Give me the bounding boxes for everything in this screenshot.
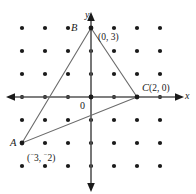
lattice-dot xyxy=(135,141,139,145)
vertex-point-b xyxy=(89,26,94,31)
lattice-dot xyxy=(43,49,47,53)
lattice-dot xyxy=(20,164,24,168)
y-axis-bottom-arrowhead xyxy=(87,183,95,192)
triangle-abc xyxy=(22,28,137,143)
lattice-dot xyxy=(135,26,139,30)
lattice-dot xyxy=(158,164,162,168)
lattice-dot xyxy=(135,49,139,53)
point-label-b: B xyxy=(71,23,77,34)
lattice-dot xyxy=(112,118,116,122)
lattice-dot xyxy=(43,164,47,168)
triangle-vertices xyxy=(20,26,140,146)
lattice-dot xyxy=(20,49,24,53)
x-axis-left-arrowhead xyxy=(6,93,15,101)
lattice-dot xyxy=(66,49,70,53)
lattice-dot xyxy=(66,72,70,76)
lattice-dot xyxy=(66,118,70,122)
vertex-point-c xyxy=(135,95,140,100)
lattice-dot xyxy=(43,141,47,145)
lattice-dot xyxy=(20,118,24,122)
origin-label: 0 xyxy=(80,101,85,111)
lattice-dot xyxy=(135,164,139,168)
lattice-dot xyxy=(66,141,70,145)
lattice-dot xyxy=(112,164,116,168)
lattice-dot xyxy=(158,118,162,122)
lattice-dot xyxy=(43,72,47,76)
lattice-dot xyxy=(20,26,24,30)
vertex-point-a xyxy=(20,141,25,146)
lattice-dot xyxy=(135,118,139,122)
x-axis xyxy=(6,93,184,101)
point-label-c-name: C xyxy=(142,82,149,93)
plot-svg xyxy=(0,0,196,194)
point-coord-b: (0, 3) xyxy=(98,33,119,43)
lattice-dot xyxy=(112,26,116,30)
point-label-a: A xyxy=(10,138,16,149)
lattice-dot xyxy=(43,26,47,30)
y-axis xyxy=(87,12,95,192)
x-axis-label: x xyxy=(185,91,189,101)
point-coord-a: (⁻3, ⁻2) xyxy=(27,154,55,164)
lattice-dot xyxy=(66,26,70,30)
lattice-dot xyxy=(43,118,47,122)
x-axis-right-arrowhead xyxy=(175,93,184,101)
point-coord-c: (2, 0) xyxy=(149,83,170,93)
coordinate-plane-figure: y x B (0, 3) C(2, 0) A (⁻3, ⁻2) 0 xyxy=(0,0,196,194)
lattice-dot xyxy=(112,72,116,76)
point-label-c: C(2, 0) xyxy=(142,83,170,94)
paren-close: ) xyxy=(52,153,55,163)
lattice-dot xyxy=(158,49,162,53)
lattice-dot xyxy=(112,141,116,145)
lattice-dot xyxy=(158,72,162,76)
y-axis-label: y xyxy=(85,10,89,20)
lattice-dot xyxy=(112,49,116,53)
origin-point xyxy=(89,95,94,100)
lattice-dot xyxy=(158,141,162,145)
lattice-dot xyxy=(20,72,24,76)
lattice-dot xyxy=(66,164,70,168)
lattice-dot xyxy=(135,72,139,76)
lattice-dot xyxy=(158,26,162,30)
